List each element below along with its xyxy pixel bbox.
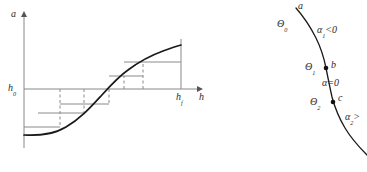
point-a-label: a — [298, 1, 303, 11]
figure-container: a h0 hf h Θ0 a α1<0 Θ1 b α=0 Θ2 c α2> — [0, 0, 367, 172]
point-b-label: b — [331, 60, 336, 70]
theta-1-label: Θ1 — [305, 62, 315, 74]
response-curve — [24, 45, 181, 135]
theta-0-label: Θ0 — [277, 19, 287, 31]
alpha-1-annotation: α1<0 — [317, 25, 337, 37]
left-panel-group — [24, 16, 198, 148]
alpha-2-annotation: α2> — [345, 112, 360, 124]
x-tick-hf-label: hf — [176, 92, 183, 104]
figure-canvas — [0, 0, 367, 172]
alpha-zero-annotation: α=0 — [322, 78, 339, 90]
y-tick-h0-label: h0 — [8, 83, 16, 95]
node-marker-c — [331, 100, 336, 105]
x-axis-label: h — [199, 92, 204, 102]
y-axis-label: a — [11, 9, 16, 19]
node-marker-b — [324, 66, 329, 71]
theta-2-label: Θ2 — [310, 97, 320, 109]
point-c-label: c — [338, 93, 342, 103]
